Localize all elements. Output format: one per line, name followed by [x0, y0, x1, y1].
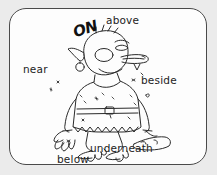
troll-left-hand — [54, 131, 75, 151]
troll-collar — [94, 82, 120, 87]
troll-eye-small — [116, 45, 128, 50]
troll-right-hand — [146, 131, 157, 136]
label-underneath: underneath — [90, 143, 153, 154]
worksheet-card: above near beside underneath below ON — [9, 8, 207, 165]
troll-mouth — [99, 69, 122, 73]
label-above: above — [106, 15, 139, 26]
troll-earring — [76, 63, 84, 71]
label-below: below — [57, 154, 89, 165]
label-near: near — [23, 64, 48, 75]
troll-ear — [68, 48, 84, 61]
troll-belt — [77, 108, 138, 109]
label-beside: beside — [141, 75, 177, 86]
troll-tusk — [134, 64, 140, 70]
troll-head — [84, 31, 128, 75]
body-hatching — [80, 93, 136, 105]
troll-eye — [95, 49, 113, 62]
